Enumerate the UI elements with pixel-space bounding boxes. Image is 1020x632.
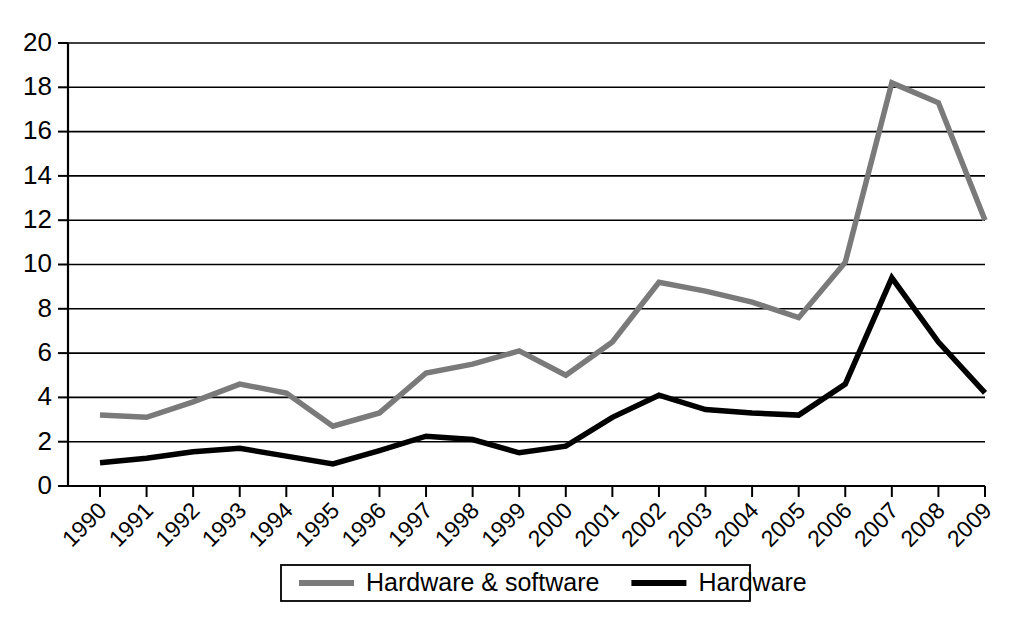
y-tick-label: 12 (23, 204, 52, 234)
y-tick-label: 20 (23, 27, 52, 57)
y-axis (58, 43, 68, 486)
x-tick-label: 2006 (802, 497, 857, 552)
x-axis (68, 486, 985, 497)
x-tick-label: 2005 (756, 497, 811, 552)
x-tick-label: 1996 (336, 497, 391, 552)
line-chart: 02468101214161820 1990199119921993199419… (0, 0, 1020, 632)
y-tick-label: 2 (38, 426, 52, 456)
chart-legend: Hardware & softwareHardware (281, 565, 807, 601)
x-tick-label: 1998 (430, 497, 485, 552)
x-tick-label: 1993 (197, 497, 252, 552)
y-tick-label: 16 (23, 115, 52, 145)
x-tick-label: 1995 (290, 497, 345, 552)
x-tick-label: 2002 (616, 497, 671, 552)
x-tick-label: 1997 (383, 497, 438, 552)
data-series-group (100, 83, 985, 464)
x-tick-label: 2007 (849, 497, 904, 552)
x-tick-label: 1999 (476, 497, 531, 552)
y-tick-label: 8 (38, 293, 52, 323)
gridlines (68, 43, 985, 486)
y-tick-label: 18 (23, 71, 52, 101)
x-tick-label: 2004 (709, 497, 764, 552)
legend-label-1: Hardware & software (366, 568, 599, 596)
x-tick-label: 1992 (150, 497, 205, 552)
x-tick-label: 2003 (662, 497, 717, 552)
x-tick-label: 1990 (57, 497, 112, 552)
x-tick-label: 2008 (895, 497, 950, 552)
legend-label-2: Hardware (698, 568, 806, 596)
x-tick-label: 1991 (104, 497, 159, 552)
y-tick-label: 14 (23, 160, 52, 190)
x-tick-label: 1994 (243, 497, 298, 552)
chart-canvas: 02468101214161820 1990199119921993199419… (0, 0, 1020, 632)
x-tick-label: 2001 (569, 497, 624, 552)
series-line-2 (100, 278, 985, 464)
x-tick-label: 2000 (523, 497, 578, 552)
y-tick-label: 0 (38, 470, 52, 500)
y-tick-labels: 02468101214161820 (23, 27, 52, 500)
x-tick-labels: 1990199119921993199419951996199719981999… (57, 497, 997, 552)
y-tick-label: 4 (38, 381, 52, 411)
x-tick-label: 2009 (942, 497, 997, 552)
y-tick-label: 10 (23, 248, 52, 278)
y-tick-label: 6 (38, 337, 52, 367)
